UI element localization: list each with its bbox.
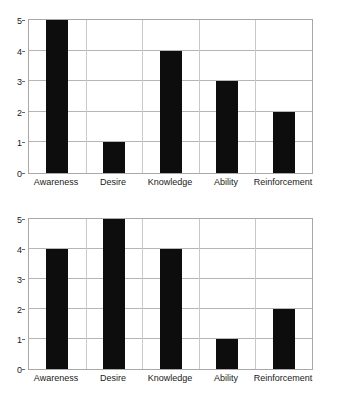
bars-layer — [29, 219, 312, 369]
y-tick-mark — [22, 249, 25, 250]
x-tick-label: Ability — [214, 372, 238, 384]
x-tick-label: Knowledge — [148, 372, 193, 384]
y-tick-mark — [22, 309, 25, 310]
bar-chart-bottom: 012345 AwarenessDesireKnowledgeAbilityRe… — [0, 199, 338, 394]
y-axis-labels: 012345 — [0, 218, 25, 370]
y-tick-mark — [22, 142, 25, 143]
y-tick-mark — [22, 339, 25, 340]
y-tick-label: 2 — [17, 108, 22, 117]
y-tick-label: 5 — [17, 17, 22, 26]
bar — [160, 51, 182, 173]
bar — [273, 112, 295, 173]
chart-page: 012345 AwarenessDesireKnowledgeAbilityRe… — [0, 0, 338, 394]
bar — [216, 81, 238, 173]
y-tick-label: 1 — [17, 336, 22, 345]
bar — [273, 309, 295, 369]
bar-chart-top: 012345 AwarenessDesireKnowledgeAbilityRe… — [0, 0, 338, 194]
y-tick-mark — [22, 112, 25, 113]
y-tick-mark — [22, 279, 25, 280]
x-axis-labels: AwarenessDesireKnowledgeAbilityReinforce… — [28, 372, 313, 386]
x-axis-labels: AwarenessDesireKnowledgeAbilityReinforce… — [28, 176, 313, 190]
y-tick-label: 0 — [17, 170, 22, 179]
plot-area — [28, 19, 313, 174]
y-tick-label: 4 — [17, 246, 22, 255]
y-axis-labels: 012345 — [0, 19, 25, 174]
x-tick-label: Ability — [214, 176, 238, 188]
y-tick-label: 2 — [17, 306, 22, 315]
x-tick-label: Reinforcement — [254, 372, 313, 384]
x-tick-label: Desire — [100, 372, 126, 384]
x-tick-label: Reinforcement — [254, 176, 313, 188]
bar — [103, 142, 125, 173]
bar — [46, 249, 68, 369]
x-tick-label: Knowledge — [148, 176, 193, 188]
bars-layer — [29, 20, 312, 173]
y-tick-mark — [22, 51, 25, 52]
x-tick-label: Awareness — [34, 372, 78, 384]
x-tick-label: Awareness — [34, 176, 78, 188]
y-tick-mark — [22, 219, 25, 220]
y-tick-label: 3 — [17, 78, 22, 87]
plot-wrapper: 012345 AwarenessDesireKnowledgeAbilityRe… — [0, 0, 338, 194]
y-tick-label: 3 — [17, 276, 22, 285]
plot-wrapper: 012345 AwarenessDesireKnowledgeAbilityRe… — [0, 199, 338, 394]
y-tick-mark — [22, 81, 25, 82]
y-tick-label: 4 — [17, 47, 22, 56]
bar — [46, 20, 68, 173]
y-tick-mark — [22, 369, 25, 370]
y-tick-label: 0 — [17, 366, 22, 375]
bar — [160, 249, 182, 369]
bar — [216, 339, 238, 369]
y-tick-label: 1 — [17, 139, 22, 148]
y-tick-mark — [22, 20, 25, 21]
bar — [103, 219, 125, 369]
x-tick-label: Desire — [100, 176, 126, 188]
y-tick-label: 5 — [17, 216, 22, 225]
y-tick-mark — [22, 173, 25, 174]
plot-area — [28, 218, 313, 370]
